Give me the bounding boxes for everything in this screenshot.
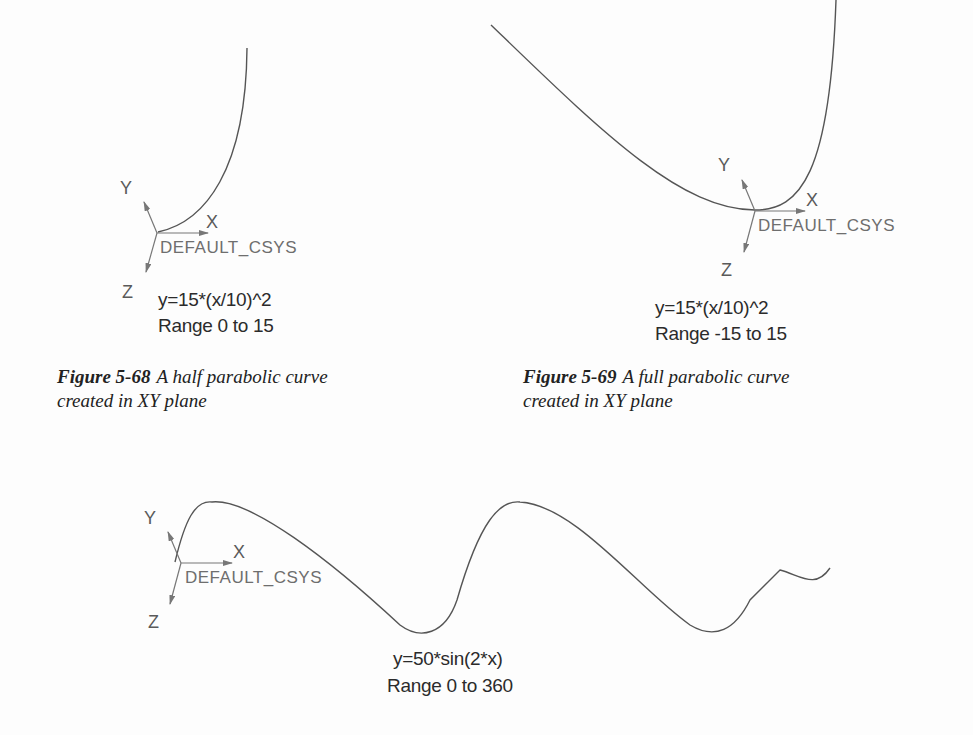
csys-label: DEFAULT_CSYS — [185, 568, 322, 588]
figure-caption: Figure 5-69A full parabolic curve create… — [523, 365, 789, 413]
z-axis-label: Z — [122, 282, 133, 303]
y-axis-label: Y — [718, 155, 730, 176]
caption-text-line2: created in XY plane — [523, 390, 673, 411]
csys-label: DEFAULT_CSYS — [160, 238, 297, 258]
equation-label: y=15*(x/10)^2 — [655, 297, 768, 319]
csys-label: DEFAULT_CSYS — [758, 216, 895, 236]
figure-number: Figure 5-69 — [523, 366, 616, 387]
y-axis-label: Y — [120, 178, 132, 199]
z-axis-label: Z — [148, 612, 159, 633]
csys-icon — [144, 202, 208, 272]
half-parabola-curve — [158, 48, 247, 232]
caption-text: A full parabolic curve — [622, 366, 789, 387]
equation-label: y=50*sin(2*x) — [393, 648, 503, 670]
z-axis-label: Z — [721, 260, 732, 281]
range-label: Range 0 to 15 — [158, 315, 273, 337]
caption-text-line2: created in XY plane — [57, 390, 207, 411]
x-axis-label: X — [806, 190, 818, 211]
x-axis-label: X — [233, 542, 245, 563]
equation-label: y=15*(x/10)^2 — [158, 289, 271, 311]
range-label: Range -15 to 15 — [655, 323, 787, 345]
caption-text: A half parabolic curve — [156, 366, 327, 387]
full-parabola-figure — [491, 0, 836, 252]
full-parabola-curve — [491, 0, 836, 210]
figure-page: Y X Z DEFAULT_CSYS y=15*(x/10)^2 Range 0… — [0, 0, 973, 735]
x-axis-label: X — [206, 212, 218, 233]
range-label: Range 0 to 360 — [387, 675, 513, 697]
figure-caption: Figure 5-68A half parabolic curve create… — [57, 365, 328, 413]
y-axis-label: Y — [144, 508, 156, 529]
figure-number: Figure 5-68 — [57, 366, 150, 387]
